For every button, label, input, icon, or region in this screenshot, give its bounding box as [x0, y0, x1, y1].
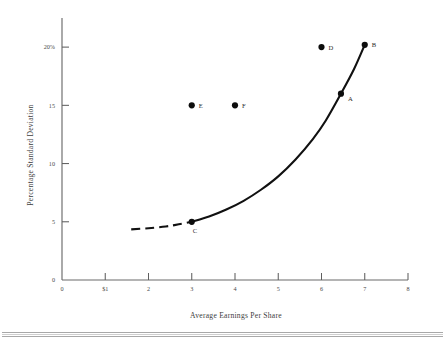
y-tick-label: 5	[52, 218, 55, 225]
data-point-a	[338, 91, 344, 97]
y-axis-ticks: 05101520%	[44, 43, 69, 283]
x-tick-label: 6	[320, 285, 323, 292]
data-point-e	[189, 102, 195, 108]
data-point-label-a: A	[348, 95, 353, 102]
y-axis-title: Percentage Standard Deviation	[26, 104, 35, 205]
footer-divider	[2, 333, 443, 337]
x-axis-ticks: 0$12345678	[60, 273, 409, 292]
data-point-c	[189, 219, 195, 225]
data-points-group: ABCDEF	[189, 41, 377, 234]
x-tick-label: 8	[406, 285, 409, 292]
x-tick-label: 5	[277, 285, 280, 292]
x-tick-label: 7	[363, 285, 366, 292]
x-axis-title: Average Earnings Per Share	[190, 311, 282, 320]
y-tick-label: 20%	[44, 43, 55, 50]
y-tick-label: 15	[49, 102, 55, 109]
axes-group	[62, 18, 408, 280]
data-point-b	[362, 42, 368, 48]
data-point-f	[232, 102, 238, 108]
trend-curve-solid	[192, 45, 365, 222]
x-tick-label: 4	[233, 285, 236, 292]
data-point-label-e: E	[199, 102, 203, 109]
x-tick-label: 2	[147, 285, 150, 292]
x-tick-label: $1	[102, 285, 108, 292]
data-point-label-c: C	[193, 227, 198, 234]
data-point-d	[318, 44, 324, 50]
chart-figure: 05101520% 0$12345678 ABCDEF Average Earn…	[0, 0, 445, 345]
data-point-label-d: D	[329, 44, 334, 51]
chart-canvas: 05101520% 0$12345678 ABCDEF Average Earn…	[0, 0, 445, 345]
data-point-label-b: B	[372, 41, 377, 48]
y-tick-label: 10	[49, 160, 55, 167]
x-tick-label: 0	[60, 285, 63, 292]
trend-curve-dashed-extension	[131, 222, 192, 230]
data-point-label-f: F	[242, 102, 246, 109]
x-tick-label: 3	[190, 285, 193, 292]
y-tick-label: 0	[52, 276, 55, 283]
